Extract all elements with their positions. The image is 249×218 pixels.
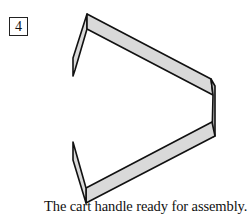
top-left-stub — [73, 14, 87, 76]
bottom-bar — [86, 122, 215, 203]
top-bar — [87, 14, 213, 95]
figure-caption: The cart handle ready for assembly. — [44, 198, 249, 215]
cart-handle-illustration — [0, 0, 249, 218]
bottom-left-stub — [73, 142, 86, 203]
